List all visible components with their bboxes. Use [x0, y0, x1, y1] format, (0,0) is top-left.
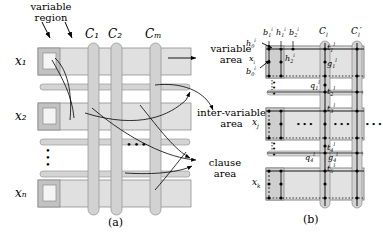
figure-container: variable region variable area inter-vari…	[0, 0, 383, 235]
node-label-h2i: h2i	[285, 53, 295, 64]
caption-panel-b: (b)	[303, 213, 319, 226]
node-label-h0i: h0i	[246, 38, 256, 49]
ellipsis-b-row-j-2: •••	[333, 121, 352, 129]
row-label-xj: xj	[252, 118, 259, 129]
node-label-q4l: q4l	[305, 152, 315, 163]
vertical-ellipsis-b-1: •••	[271, 81, 277, 97]
node-label-t3l: t3l	[327, 103, 335, 114]
node-label-t2l: t2l	[327, 86, 335, 97]
row-label-xk: xk	[252, 178, 260, 189]
col-label-cl: Cl	[319, 27, 328, 38]
node-label-t1l: t1l	[327, 42, 335, 53]
col-label-cl-prime: Cl′	[351, 27, 362, 38]
row-label-xi: xi	[249, 55, 255, 65]
node-label-q1l: q1l	[310, 80, 320, 91]
vertical-ellipsis-b-2: •••	[271, 142, 277, 158]
node-label-b1i: b1i	[263, 27, 273, 38]
ellipsis-b-row-j-1: •••	[296, 121, 315, 129]
node-label-t5l: t5l	[327, 163, 335, 174]
node-label-b2i: b2i	[289, 27, 299, 38]
node-label-g1l: g1l	[327, 58, 337, 69]
node-label-b0i: b0i	[246, 66, 256, 77]
ellipsis-b-row-j-3: •••	[365, 121, 383, 129]
node-label-h1i: h1i	[276, 27, 286, 38]
